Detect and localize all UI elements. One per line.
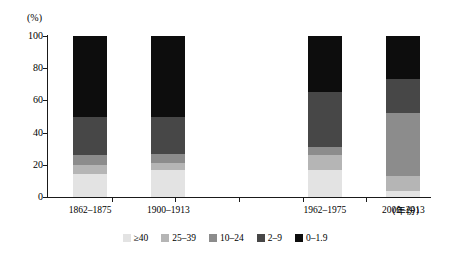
legend-item[interactable]: 0–1.9 <box>295 233 327 243</box>
y-tick-mark <box>43 133 47 134</box>
x-category-label: 1862–1875 <box>58 205 122 216</box>
bar-segment <box>73 165 107 175</box>
legend-label: 25–39 <box>172 233 196 243</box>
bar-segment <box>73 155 107 165</box>
bar-segment <box>73 117 107 156</box>
legend-item[interactable]: 2–9 <box>257 233 282 243</box>
legend-swatch-icon <box>209 234 217 242</box>
x-axis-title: (年份) <box>392 205 419 216</box>
bar-segment <box>151 163 185 169</box>
x-tick-mark <box>175 198 176 202</box>
y-tick-mark <box>43 36 47 37</box>
bar-segment <box>151 154 185 164</box>
y-tick-label: 100 <box>14 31 43 41</box>
bar-1962-1975 <box>308 36 342 197</box>
y-tick-label-text: 80 <box>17 63 43 73</box>
y-tick-label: 20 <box>14 160 43 170</box>
bar-segment <box>151 117 185 154</box>
bar-segment <box>151 170 185 197</box>
x-tick-mark <box>366 198 367 202</box>
y-axis-unit-label: (%) <box>27 12 42 23</box>
bar-segment <box>308 155 342 169</box>
y-tick-label-text: 100 <box>17 31 43 41</box>
stacked-bar-chart: (%) 020406080100 1862–18751900–19131962–… <box>0 0 450 261</box>
legend-swatch-icon <box>161 234 169 242</box>
x-tick-mark <box>239 198 240 202</box>
legend-label: 0–1.9 <box>306 233 327 243</box>
bar-segment <box>151 36 185 117</box>
y-tick-mark <box>43 165 47 166</box>
y-tick-mark <box>43 68 47 69</box>
legend-swatch-icon <box>123 234 131 242</box>
x-tick-mark <box>303 198 304 202</box>
y-tick-label-text: 40 <box>17 128 43 138</box>
y-tick-label-text: 60 <box>17 95 43 105</box>
y-tick-label-text: 20 <box>17 160 43 170</box>
x-tick-mark <box>112 198 113 202</box>
y-tick-mark <box>43 197 47 198</box>
y-tick-label: 0 <box>14 192 43 202</box>
bar-segment <box>386 113 420 176</box>
bar-segment <box>308 92 342 147</box>
y-tick-label: 40 <box>14 128 43 138</box>
y-tick-mark <box>43 100 47 101</box>
bar-segment <box>73 174 107 197</box>
bar-1900-1913 <box>151 36 185 197</box>
legend-label: ≥40 <box>134 233 149 243</box>
bar-segment <box>73 36 107 117</box>
bar-segment <box>386 191 420 197</box>
legend-item[interactable]: 10–24 <box>209 233 244 243</box>
y-tick-label: 80 <box>14 63 43 73</box>
legend-swatch-icon <box>257 234 265 242</box>
legend-label: 2–9 <box>268 233 282 243</box>
bar-segment <box>386 36 420 79</box>
y-tick-label-text: 0 <box>17 192 43 202</box>
bar-segment <box>308 147 342 155</box>
bar-segment <box>386 176 420 190</box>
bar-2000-2013 <box>386 36 420 197</box>
chart-legend: ≥4025–3910–242–90–1.9 <box>0 233 450 243</box>
y-tick-label: 60 <box>14 95 43 105</box>
plot-area <box>48 36 430 197</box>
bar-1862-1875 <box>73 36 107 197</box>
legend-swatch-icon <box>295 234 303 242</box>
bar-segment <box>308 170 342 197</box>
bar-segment <box>386 79 420 113</box>
legend-item[interactable]: 25–39 <box>161 233 196 243</box>
legend-item[interactable]: ≥40 <box>123 233 149 243</box>
x-category-label: 1900–1913 <box>136 205 200 216</box>
legend-label: 10–24 <box>220 233 244 243</box>
x-category-label: 1962–1975 <box>293 205 357 216</box>
bar-segment <box>308 36 342 92</box>
